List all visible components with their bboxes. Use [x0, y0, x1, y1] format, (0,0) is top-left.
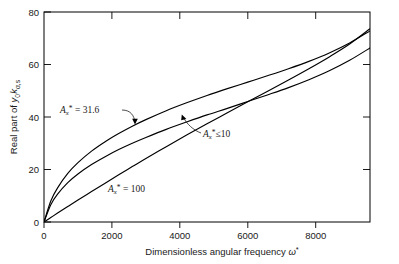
x-tick-label-0: 0: [41, 230, 46, 241]
chart-svg: 0 20 40 60 80 0 2000 4000 6000 8000 Dime…: [0, 0, 399, 264]
x-tick-label-4000: 4000: [169, 230, 190, 241]
y-axis-title-prefix: Real part of: [8, 102, 19, 154]
annot3-relation: =: [121, 184, 131, 194]
x-axis-title: Dimensionless angular frequency ω*: [145, 245, 299, 257]
chart-background: [0, 0, 399, 264]
x-tick-label-2000: 2000: [101, 230, 122, 241]
annotation-a31-6-label: Ax* = 31.6: [59, 104, 100, 117]
y-tick-label-80: 80: [28, 7, 39, 18]
y-axis-title-var2-sub: α,s: [14, 79, 21, 89]
annotation-a-le-10-label: Ax*≤10: [202, 128, 231, 141]
y-tick-label-0: 0: [34, 217, 39, 228]
y-tick-label-20: 20: [28, 164, 39, 175]
y-tick-label-40: 40: [28, 112, 39, 123]
annot3-value: 100: [131, 184, 146, 194]
x-tick-label-6000: 6000: [237, 230, 258, 241]
x-axis-title-star: *: [296, 245, 299, 254]
y-axis-title: Real part of y0kα,s: [8, 79, 21, 154]
annot1-relation: =: [73, 105, 83, 115]
x-axis-title-prefix: Dimensionless angular frequency: [145, 246, 288, 257]
annot2-value: 10: [221, 129, 231, 139]
y-tick-label-60: 60: [28, 59, 39, 70]
chart-figure: 0 20 40 60 80 0 2000 4000 6000 8000 Dime…: [0, 0, 399, 264]
x-tick-label-8000: 8000: [305, 230, 326, 241]
annotation-a100-label: Ax* = 100: [107, 183, 145, 196]
annot1-value: 31.6: [83, 105, 100, 115]
